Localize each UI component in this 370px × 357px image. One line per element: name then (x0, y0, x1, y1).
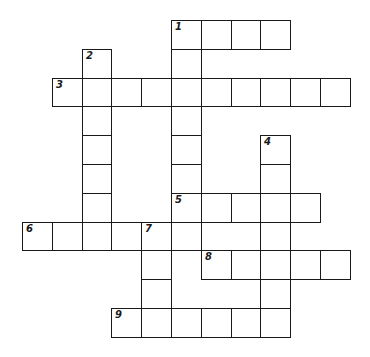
crossword-cell[interactable] (82, 78, 112, 107)
crossword-cell[interactable] (171, 135, 202, 165)
crossword-cell[interactable] (141, 78, 172, 107)
crossword-cell[interactable]: 7 (141, 222, 172, 251)
crossword-cell[interactable] (141, 279, 172, 309)
crossword-cell[interactable] (260, 164, 291, 194)
crossword-cell[interactable]: 1 (171, 20, 202, 50)
crossword-cell[interactable] (111, 78, 142, 107)
crossword-cell[interactable]: 8 (201, 250, 232, 280)
crossword-cell[interactable] (82, 164, 112, 194)
clue-number: 1 (175, 22, 182, 32)
crossword-cell[interactable] (260, 250, 291, 280)
crossword-cell[interactable] (231, 20, 261, 50)
crossword-cell[interactable] (320, 78, 351, 107)
clue-number: 2 (86, 51, 93, 61)
clue-number: 9 (115, 310, 122, 320)
crossword-cell[interactable] (171, 78, 202, 107)
crossword-cell[interactable] (82, 222, 112, 251)
crossword-cell[interactable] (290, 193, 321, 223)
crossword-cell[interactable]: 5 (171, 193, 202, 223)
crossword-cell[interactable] (82, 135, 112, 165)
crossword-cell[interactable] (260, 308, 291, 338)
clue-number: 6 (26, 224, 33, 234)
crossword-cell[interactable]: 9 (111, 308, 142, 338)
crossword-cell[interactable]: 4 (260, 135, 291, 165)
crossword-cell[interactable] (201, 308, 232, 338)
crossword-cell[interactable] (290, 250, 321, 280)
crossword-cell[interactable] (201, 78, 232, 107)
crossword-cell[interactable] (141, 308, 172, 338)
crossword-cell[interactable] (320, 250, 351, 280)
crossword-cell[interactable] (171, 49, 202, 79)
crossword-cell[interactable]: 6 (22, 222, 53, 251)
crossword-cell[interactable] (82, 106, 112, 136)
crossword-cell[interactable] (171, 222, 202, 251)
clue-number: 5 (175, 195, 182, 205)
crossword-grid: 152346789 (0, 0, 370, 357)
crossword-cell[interactable] (260, 193, 291, 223)
crossword-cell[interactable] (260, 222, 291, 251)
crossword-cell[interactable] (231, 78, 261, 107)
crossword-cell[interactable] (260, 20, 291, 50)
clue-number: 4 (264, 137, 271, 147)
crossword-cell[interactable] (171, 164, 202, 194)
crossword-cell[interactable] (260, 279, 291, 309)
clue-number: 7 (145, 224, 152, 234)
crossword-cell[interactable] (52, 222, 83, 251)
crossword-cell[interactable] (290, 78, 321, 107)
crossword-cell[interactable] (171, 308, 202, 338)
crossword-cell[interactable]: 2 (82, 49, 112, 79)
clue-number: 8 (205, 252, 212, 262)
crossword-cell[interactable] (231, 250, 261, 280)
clue-number: 3 (56, 80, 63, 90)
crossword-cell[interactable] (111, 222, 142, 251)
crossword-cell[interactable] (231, 308, 261, 338)
crossword-cell[interactable] (171, 106, 202, 136)
crossword-cell[interactable] (82, 193, 112, 223)
crossword-cell[interactable] (201, 20, 232, 50)
crossword-cell[interactable] (201, 193, 232, 223)
crossword-cell[interactable]: 3 (52, 78, 83, 107)
crossword-cell[interactable] (231, 193, 261, 223)
crossword-cell[interactable] (141, 250, 172, 280)
crossword-cell[interactable] (260, 78, 291, 107)
